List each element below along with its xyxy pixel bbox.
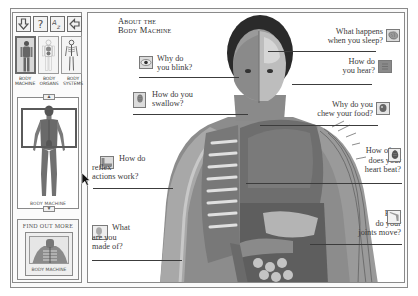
callout-text: How do you hear? <box>343 57 375 75</box>
callout-text: How do reflex actions work? <box>92 154 146 181</box>
eye-icon <box>139 56 153 69</box>
up-arrow-icon: ▲ <box>47 94 52 99</box>
callout-text: Why do you blink? <box>157 54 192 72</box>
question-mark-icon: ? <box>38 18 44 31</box>
callout-what-are-you-made-of[interactable]: What are you made of? <box>92 223 162 259</box>
callout-what-happens-when-you-sleep[interactable]: What happens when you sleep? <box>310 27 400 51</box>
left-arrow-icon <box>69 18 80 30</box>
page-title-line-2: Body Machine <box>118 26 171 35</box>
mouse-pointer-icon <box>81 172 91 186</box>
find-out-more-panel: FIND OUT MORE BODY MACHINE <box>17 219 79 280</box>
down-arrow-button[interactable] <box>16 16 31 32</box>
find-out-more-title: FIND OUT MORE <box>18 223 78 229</box>
heart-icon <box>388 148 401 162</box>
body-machine-figure-icon <box>18 40 35 73</box>
a-z-index-button[interactable]: Az <box>50 16 65 32</box>
scroll-down-button[interactable]: ▼ <box>43 206 55 212</box>
callout-how-do-you-swallow[interactable]: How do you swallow? <box>133 90 213 114</box>
body-machine-label: BODY MACHINE <box>14 76 36 86</box>
help-button[interactable]: ? <box>33 16 48 32</box>
full-body-figure-image <box>30 104 68 200</box>
callout-text: How do you swallow? <box>152 90 193 108</box>
brain-icon <box>386 29 400 42</box>
joint-icon <box>387 210 401 224</box>
callout-how-do-your-joints-move[interactable]: How do your joints move? <box>333 209 401 245</box>
callout-pointer-line <box>133 114 248 115</box>
callout-why-do-you-blink[interactable]: Why do you blink? <box>139 54 234 78</box>
head-icon <box>376 102 390 115</box>
callout-pointer-line <box>310 244 402 245</box>
page-title: About the Body Machine <box>118 17 171 35</box>
callout-pointer-line <box>268 51 376 52</box>
callout-pointer-line <box>292 84 372 85</box>
callout-text: What happens when you sleep? <box>328 27 383 45</box>
toolbar: ? Az <box>16 16 82 32</box>
callout-how-do-reflex-actions-work[interactable]: How do reflex actions work? <box>92 154 177 190</box>
svg-text:z: z <box>56 23 61 30</box>
callout-why-do-you-chew-your-food[interactable]: Why do you chew your food? <box>300 100 393 124</box>
callout-pointer-line <box>92 260 182 261</box>
callout-how-do-you-hear[interactable]: How do you hear? <box>325 57 395 81</box>
main-content-panel: About the Body Machine Why do you blink?… <box>87 12 405 283</box>
find-out-more-caption: BODY MACHINE <box>26 267 72 272</box>
body-organs-thumbnail[interactable] <box>38 36 59 74</box>
find-out-more-card[interactable]: BODY MACHINE <box>25 232 73 276</box>
callout-text: Why do you chew your food? <box>317 100 373 118</box>
body-systems-thumbnail[interactable] <box>61 36 82 74</box>
callout-pointer-line <box>93 188 173 189</box>
down-arrow-icon: ▼ <box>47 206 52 211</box>
callout-pointer-line <box>139 77 239 78</box>
callout-pointer-line <box>246 183 402 184</box>
scroll-up-button[interactable]: ▲ <box>43 94 55 100</box>
body-preview-navigator[interactable]: ▲ BODY MACHINE ▼ <box>17 97 79 209</box>
body-systems-label: BODY SYSTEMS <box>62 76 84 86</box>
back-arrow-button[interactable] <box>67 16 82 32</box>
body-organs-label: BODY ORGANS <box>38 76 60 86</box>
skeleton-figure-icon <box>63 39 80 72</box>
navigation-column: ? Az <box>12 12 82 283</box>
torso-anatomy-thumbnail <box>29 236 69 264</box>
a-z-icon: Az <box>52 18 63 30</box>
down-arrow-icon <box>18 18 29 30</box>
throat-icon <box>133 92 146 108</box>
body-organs-figure-icon <box>40 39 57 72</box>
callout-text: What are you made of? <box>92 223 130 252</box>
body-machine-thumbnail[interactable] <box>15 36 36 74</box>
body-view-selector <box>15 36 82 74</box>
callout-pointer-line <box>260 125 378 126</box>
ear-icon <box>378 60 392 73</box>
callout-how-often-does-your-heart-beat[interactable]: How often does your heart beat? <box>321 146 401 182</box>
torso-anatomy-icon <box>30 237 69 264</box>
thumbnail-labels: BODY MACHINE BODY ORGANS BODY SYSTEMS <box>14 76 84 86</box>
